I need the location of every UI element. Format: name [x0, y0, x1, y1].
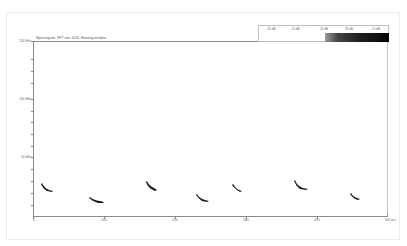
call-4: [196, 194, 209, 202]
call-1: [41, 183, 53, 192]
call-3: [146, 181, 157, 191]
call-6: [294, 180, 308, 190]
call-5: [232, 184, 242, 192]
call-7: [350, 193, 360, 200]
call-2: [89, 197, 104, 203]
spectrogram-calls: [0, 0, 407, 246]
